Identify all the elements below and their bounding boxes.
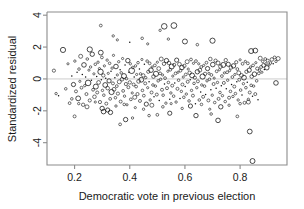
x-tick-label: 0.4	[122, 171, 137, 183]
data-point	[241, 94, 243, 96]
data-point	[124, 64, 126, 66]
data-point	[252, 95, 254, 97]
data-point	[110, 71, 112, 73]
y-tick-label: 4	[31, 12, 43, 18]
data-point	[148, 81, 150, 83]
x-tick-label: 0.8	[233, 171, 248, 183]
x-tick-label: 0.2	[67, 171, 82, 183]
data-point	[200, 91, 202, 93]
data-point	[119, 69, 121, 71]
data-point	[82, 74, 84, 76]
data-point	[215, 87, 217, 89]
data-point	[221, 85, 223, 87]
plot-background	[0, 0, 304, 209]
data-point	[174, 82, 176, 84]
data-point	[71, 75, 73, 77]
scatter-plot-figure: 0.20.40.60.8 420-2-4 Democratic vote in …	[0, 0, 304, 209]
x-tick-label: 0.6	[178, 171, 193, 183]
data-point	[205, 94, 207, 96]
data-point	[58, 95, 60, 97]
plot-canvas: 0.20.40.60.8 420-2-4 Democratic vote in …	[0, 0, 304, 209]
y-tick-label: 2	[31, 44, 43, 50]
data-point	[210, 89, 212, 91]
data-point	[144, 64, 146, 66]
data-point	[96, 76, 98, 78]
data-point	[184, 86, 186, 88]
y-tick-label: -4	[31, 138, 43, 147]
data-point	[159, 100, 161, 102]
data-point	[189, 79, 191, 81]
data-point	[85, 76, 87, 78]
data-point	[101, 79, 103, 81]
data-point	[133, 76, 135, 78]
data-point	[257, 99, 259, 101]
y-axis-title: Standardized residual	[6, 36, 18, 142]
y-tick-label: -2	[31, 106, 43, 115]
data-point	[247, 81, 249, 83]
x-axis-title: Democratic vote in previous election	[79, 190, 256, 202]
data-point	[114, 77, 116, 79]
data-point	[139, 68, 141, 70]
data-point	[169, 99, 171, 101]
y-tick-label: 0	[31, 76, 43, 82]
data-point	[164, 83, 166, 85]
data-point	[231, 84, 233, 86]
data-point	[272, 63, 274, 65]
data-point	[153, 96, 155, 98]
data-point	[129, 42, 131, 44]
data-point	[195, 103, 197, 105]
data-point	[226, 88, 228, 90]
data-point	[236, 81, 238, 83]
data-point	[76, 71, 78, 73]
data-point	[105, 77, 107, 79]
data-point	[179, 98, 181, 100]
data-point	[91, 79, 93, 81]
